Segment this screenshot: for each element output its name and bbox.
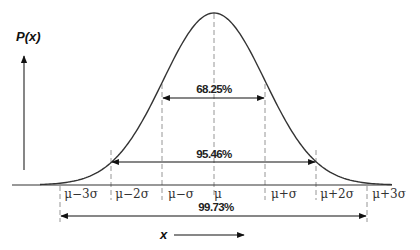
- y-axis-label: P(x): [16, 29, 41, 44]
- tick-label-mu: μ: [214, 187, 222, 201]
- x-axis-label: x: [160, 227, 167, 242]
- tick-label-minus-sigma: μ−σ: [168, 187, 194, 201]
- tick-label-plus-3sigma: μ+3σ: [372, 187, 406, 201]
- interval-label-99: 99.73%: [198, 201, 233, 213]
- interval-label-68: 68.25%: [196, 83, 231, 95]
- tick-label-minus-2sigma: μ−2σ: [115, 187, 149, 201]
- tick-label-plus-sigma: μ+σ: [271, 187, 297, 201]
- normal-distribution-diagram: P(x) x μ−3σ μ−2σ μ−σ μ μ+σ μ+2σ μ+3σ 68.…: [0, 0, 420, 250]
- interval-label-95: 95.46%: [196, 148, 231, 160]
- tick-label-minus-3sigma: μ−3σ: [64, 187, 98, 201]
- tick-label-plus-2sigma: μ+2σ: [320, 187, 354, 201]
